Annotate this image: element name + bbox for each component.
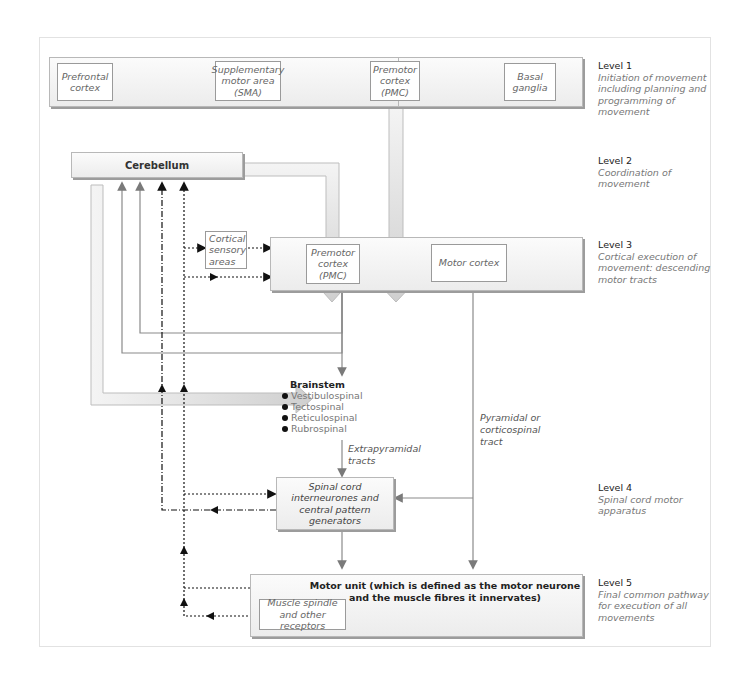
extrapyramidal-label: Extrapyramidal tracts bbox=[348, 443, 412, 467]
premotor-cortex-level3-box: Premotor cortex (PMC) bbox=[306, 244, 360, 284]
basal-ganglia-box: Basal ganglia bbox=[504, 63, 556, 101]
brainstem-title: Brainstem bbox=[290, 379, 363, 390]
cerebellum-box: Cerebellum bbox=[71, 152, 243, 178]
bullet-icon bbox=[282, 426, 288, 432]
tract-item: Vestibulospinal bbox=[282, 390, 363, 401]
tract-item: Reticulospinal bbox=[282, 412, 363, 423]
tract-item: Rubrospinal bbox=[282, 423, 363, 434]
level-4-caption: Level 4 Spinal cord motor apparatus bbox=[598, 482, 718, 517]
level-5-caption: Level 5 Final common pathway for executi… bbox=[598, 577, 718, 623]
level-3-caption: Level 3 Cortical execution of movement: … bbox=[598, 239, 718, 285]
pyramidal-label: Pyramidal or corticospinal tract bbox=[480, 412, 560, 448]
prefrontal-cortex-box: Prefrontal cortex bbox=[57, 63, 113, 101]
tract-item: Tectospinal bbox=[282, 401, 363, 412]
bullet-icon bbox=[282, 415, 288, 421]
level-2-caption: Level 2 Coordination of movement bbox=[598, 155, 718, 190]
sma-box: Supplementary motor area (SMA) bbox=[215, 61, 281, 101]
motor-cortex-box: Motor cortex bbox=[431, 244, 507, 282]
cortical-sensory-areas-box: Cortical sensory areas bbox=[205, 231, 247, 269]
cerebellum-to-brainstem-arrow bbox=[91, 185, 312, 413]
level-1-caption: Level 1 Initiation of movement including… bbox=[598, 60, 718, 118]
spinal-cord-box: Spinal cord interneurones and central pa… bbox=[276, 477, 394, 530]
bullet-icon bbox=[282, 393, 288, 399]
muscle-spindle-box: Muscle spindle and other receptors bbox=[259, 599, 346, 630]
premotor-cortex-level1-box: Premotor cortex (PMC) bbox=[370, 61, 420, 101]
bullet-icon bbox=[282, 404, 288, 410]
brainstem-list: Brainstem Vestibulospinal Tectospinal Re… bbox=[282, 379, 363, 434]
